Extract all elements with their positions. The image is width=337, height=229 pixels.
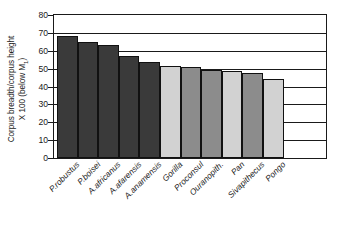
y-tick-label: 60 xyxy=(38,46,48,55)
bar xyxy=(201,70,222,158)
bar xyxy=(139,62,160,158)
x-tick-label: Pongo xyxy=(264,160,287,183)
y-axis-label-line1: Corpus breadth/corpus height xyxy=(7,36,17,142)
y-tick-label: 30 xyxy=(38,100,48,109)
y-tick-label: 10 xyxy=(38,136,48,145)
y-tick-label: 50 xyxy=(38,64,48,73)
y-axis-label-line2-pre: X 100 (below M xyxy=(18,64,27,120)
bar xyxy=(78,42,99,158)
bar xyxy=(263,79,284,158)
bar xyxy=(98,45,119,159)
plot-area xyxy=(53,14,327,159)
bar xyxy=(160,66,181,158)
bar xyxy=(181,67,202,158)
y-tick-label: 80 xyxy=(38,11,48,20)
x-axis-tick-labels: P.robustusP.boiseiA.africanusA.afarensis… xyxy=(53,160,337,229)
bar xyxy=(119,56,140,158)
y-tick-label: 20 xyxy=(38,118,48,127)
bar xyxy=(222,71,243,158)
bar-series xyxy=(54,15,326,158)
bar-chart-figure: Corpus breadth/corpus height X 100 (belo… xyxy=(0,0,337,229)
y-tick-label: 40 xyxy=(38,82,48,91)
y-axis-tick-labels: 01020304050607080 xyxy=(28,14,48,159)
y-tick-label: 70 xyxy=(38,29,48,38)
y-axis-label-line2-post: ) xyxy=(18,58,27,61)
bar xyxy=(242,73,263,158)
bar xyxy=(57,36,78,158)
